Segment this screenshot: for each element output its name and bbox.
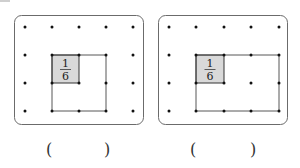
close-paren-1: ) [104,140,110,159]
open-paren-1: ( [46,140,52,159]
open-paren-2: ( [190,140,196,159]
close-paren-2: ) [250,140,256,159]
fraction-numerator-1: 1 [62,57,69,70]
fraction-denominator-1: 6 [62,70,69,83]
item-marker [0,0,10,2]
fraction-denominator-2: 6 [207,70,214,83]
worksheet: 1 6 1 6 ( ) ( [0,0,300,168]
fraction-numerator-2: 1 [207,57,214,70]
figure-1: 1 6 [15,16,144,125]
figure-2: 1 6 [159,16,288,125]
